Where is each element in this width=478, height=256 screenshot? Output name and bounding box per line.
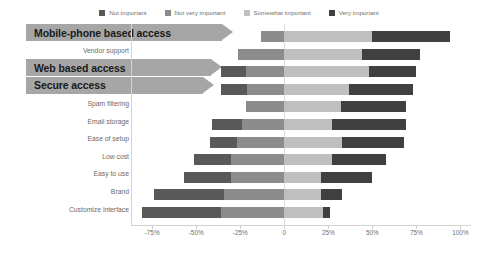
bar-segment-somewhat-important [284,137,342,148]
bar-segment-somewhat-important [284,31,372,42]
plot-area: -75%-50%-25%025%50%75%100% [131,24,471,226]
bar-segment-somewhat-important [284,84,349,95]
bar-segment-not-important [154,189,224,200]
bar-segment-not-very-important [242,119,284,130]
bar-segment-somewhat-important [284,49,362,60]
bar-segment-somewhat-important [284,172,321,183]
x-axis-line [131,225,471,226]
bar-segment-very-important [362,49,420,60]
bar-segment-not-very-important [246,66,285,77]
bar-segment-not-very-important [221,207,284,218]
bar-segment-not-very-important [261,31,284,42]
x-axis-tick-label: 100% [452,230,468,236]
category-label: Vendor support [0,41,133,61]
bar-segment-somewhat-important [284,66,369,77]
bar-segment-somewhat-important [284,119,332,130]
legend-label: Not very important [175,10,226,16]
bar-segment-very-important [369,66,417,77]
x-axis-tick-label: -25% [233,230,248,236]
bar-segment-not-important [184,172,232,183]
bar-segment-not-very-important [247,84,284,95]
bar-segment-somewhat-important [284,207,323,218]
bar-segment-not-very-important [231,172,284,183]
bar-segment-not-important [142,207,221,218]
bar-segment-very-important [341,101,406,112]
bar-segment-somewhat-important [284,189,321,200]
legend-label: Not important [109,10,146,16]
bar-segment-not-very-important [238,49,284,60]
bar-segment-somewhat-important [284,154,332,165]
bar-segment-very-important [321,172,372,183]
square-swatch-icon [244,10,250,16]
category-label: Customize interface [0,199,133,219]
bar-segment-very-important [342,137,404,148]
square-swatch-icon [99,10,105,16]
bar-segment-very-important [323,207,330,218]
bar-segment-very-important [372,31,450,42]
legend-item: Not important [99,10,146,16]
bar-segment-not-very-important [246,101,285,112]
x-axis-tick-label: -75% [145,230,160,236]
bar-segment-not-very-important [237,137,285,148]
bar-segment-not-very-important [231,154,284,165]
x-axis-tick-label: 25% [322,230,335,236]
bar-segment-not-important [194,154,231,165]
bar-segment-not-very-important [224,189,284,200]
bar-segment-very-important [349,84,412,95]
chart-legend: Not importantNot very importantSomewhat … [0,7,478,19]
square-swatch-icon [329,10,335,16]
square-swatch-icon [165,10,171,16]
bar-segment-very-important [321,189,342,200]
x-axis-tick-label: -50% [189,230,204,236]
bar-segment-very-important [332,119,406,130]
bar-segment-very-important [332,154,387,165]
legend-item: Somewhat important [244,10,311,16]
x-axis-tick-label: 0 [282,230,286,236]
bar-segment-not-important [210,137,236,148]
chart-row [131,203,471,223]
bar-segment-not-important [221,84,247,95]
bar-segment-not-important [221,66,246,77]
legend-item: Very important [329,10,379,16]
legend-label: Very important [339,10,379,16]
x-axis-tick-label: 75% [410,230,423,236]
bar-segment-somewhat-important [284,101,340,112]
legend-item: Not very important [165,10,226,16]
diverging-stacked-bar-chart: Not importantNot very importantSomewhat … [0,0,478,256]
legend-label: Somewhat important [254,10,311,16]
bar-segment-not-important [212,119,242,130]
x-axis-tick-label: 50% [366,230,379,236]
